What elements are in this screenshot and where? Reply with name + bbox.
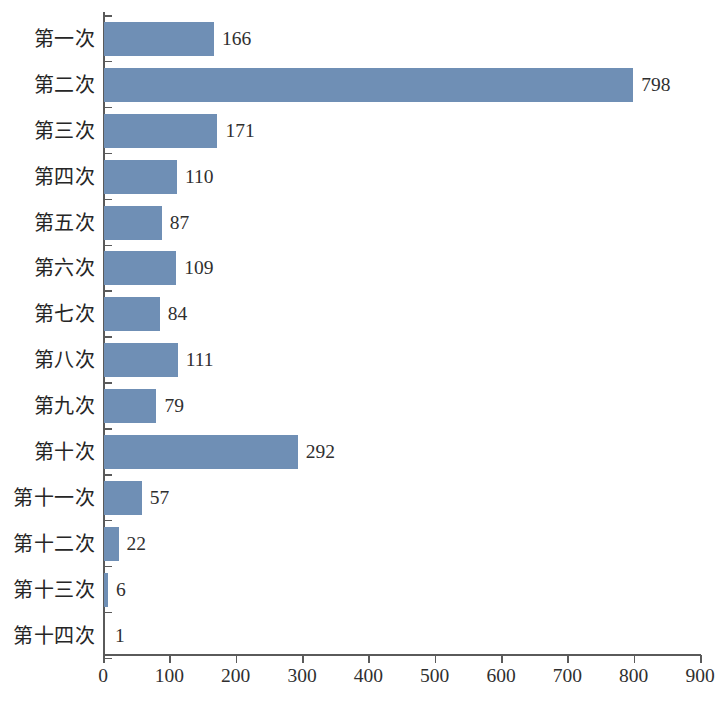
bar-value-label: 166 [222, 29, 251, 49]
bar [104, 481, 142, 515]
category-label: 第十四次 [13, 626, 95, 646]
bar-value-label: 111 [186, 350, 214, 370]
x-axis-tick [103, 655, 105, 663]
bar-row: 第十三次6 [0, 567, 717, 613]
bar-row: 第一次166 [0, 16, 717, 62]
bar-row: 第十四次1 [0, 613, 717, 659]
category-label: 第五次 [34, 213, 96, 233]
x-axis-tick [634, 655, 636, 663]
x-axis-tick [169, 655, 171, 663]
x-axis-tick [501, 655, 503, 663]
x-axis-tick-label: 400 [354, 666, 383, 686]
bar-row: 第十二次22 [0, 521, 717, 567]
x-axis-tick [302, 655, 304, 663]
category-label: 第一次 [34, 29, 96, 49]
x-axis-tick [236, 655, 238, 663]
x-axis-tick-label: 700 [553, 666, 582, 686]
bar-row: 第二次798 [0, 62, 717, 108]
x-axis-tick [567, 655, 569, 663]
bar [104, 343, 178, 377]
bar-row: 第四次110 [0, 154, 717, 200]
bar-row: 第七次84 [0, 291, 717, 337]
bar-value-label: 110 [185, 167, 214, 187]
x-axis-tick-label: 500 [420, 666, 449, 686]
bar [104, 527, 119, 561]
x-axis-tick-label: 600 [486, 666, 515, 686]
x-axis-tick [435, 655, 437, 663]
bar-value-label: 6 [116, 580, 126, 600]
bar-value-label: 87 [170, 213, 190, 233]
category-label: 第八次 [34, 350, 96, 370]
bar-row: 第五次87 [0, 200, 717, 246]
bar [104, 435, 298, 469]
bar [104, 22, 214, 56]
bar [104, 114, 217, 148]
category-label: 第十次 [34, 442, 96, 462]
bar [104, 206, 162, 240]
bar-value-label: 171 [225, 121, 254, 141]
x-axis-tick [700, 655, 702, 663]
x-axis-tick-label: 200 [221, 666, 250, 686]
bar [104, 251, 176, 285]
bar-value-label: 109 [184, 259, 213, 279]
bar-chart: 第一次166第二次798第三次171第四次110第五次87第六次109第七次84… [0, 0, 717, 707]
category-label: 第十二次 [13, 534, 95, 554]
bar-row: 第九次79 [0, 383, 717, 429]
category-label: 第九次 [34, 396, 96, 416]
x-axis-tick-label: 0 [98, 666, 108, 686]
x-axis-tick-label: 300 [287, 666, 316, 686]
category-label: 第四次 [34, 167, 96, 187]
bar [104, 297, 160, 331]
bar-value-label: 292 [306, 442, 335, 462]
x-axis-tick-label: 800 [619, 666, 648, 686]
bar-row: 第十次292 [0, 429, 717, 475]
bar-value-label: 22 [127, 534, 147, 554]
bar [104, 389, 156, 423]
bar-value-label: 84 [168, 305, 188, 325]
bar-row: 第六次109 [0, 246, 717, 292]
category-label: 第三次 [34, 121, 96, 141]
plot-area: 第一次166第二次798第三次171第四次110第五次87第六次109第七次84… [0, 0, 717, 707]
bar-value-label: 79 [164, 396, 184, 416]
category-label: 第六次 [34, 258, 96, 278]
category-label: 第七次 [34, 304, 96, 324]
x-axis-tick-label: 900 [685, 666, 714, 686]
bar-value-label: 1 [115, 626, 125, 646]
bar [104, 68, 633, 102]
bar [104, 573, 108, 607]
category-label: 第十三次 [13, 580, 95, 600]
bar-row: 第八次111 [0, 337, 717, 383]
category-label: 第十一次 [13, 488, 95, 508]
bar-value-label: 57 [150, 488, 170, 508]
bar [104, 160, 177, 194]
x-axis-tick-label: 100 [155, 666, 184, 686]
category-label: 第二次 [34, 75, 96, 95]
bar-row: 第十一次57 [0, 475, 717, 521]
bar-row: 第三次171 [0, 108, 717, 154]
x-axis-tick [368, 655, 370, 663]
bar-value-label: 798 [641, 75, 670, 95]
